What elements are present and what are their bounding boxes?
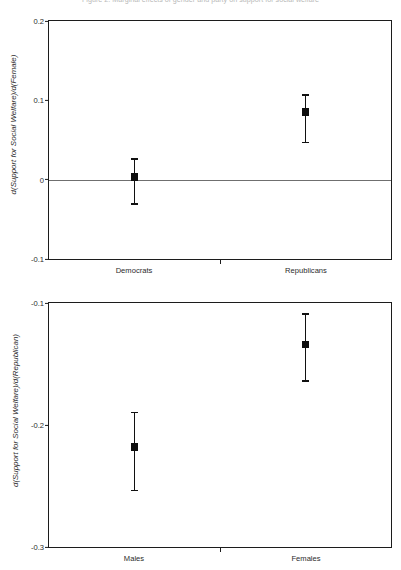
y-tick-label: 0.2	[33, 17, 49, 26]
y-tick-label: -0.3	[31, 543, 49, 552]
y-tick-label: -0.2	[31, 421, 49, 430]
x-tick-mark	[220, 547, 221, 552]
y-tick-label: -0.1	[31, 299, 49, 308]
x-axis-ticks	[49, 259, 391, 264]
y-axis-label-female: d(Support for Social Welfare)/d(Female)	[9, 50, 18, 200]
error-bar-line	[305, 94, 307, 142]
error-bar-cap-lower	[131, 203, 138, 205]
chart-panel-female-effect: d(Support for Social Welfare)/d(Female) …	[0, 8, 401, 280]
figure-page: Figure 2. Marginal effects of gender and…	[0, 0, 401, 570]
y-tick-label: 0	[40, 175, 49, 184]
y-tick-label: -0.1	[31, 255, 49, 264]
error-bar-cap-lower	[302, 380, 309, 382]
error-bar-cap-lower	[131, 490, 138, 492]
error-bar-cap-upper	[302, 94, 309, 96]
marker-square	[302, 108, 310, 116]
x-label-republicans: Republicans	[285, 266, 327, 275]
x-axis-ticks	[49, 547, 391, 552]
error-bar-cap-upper	[131, 158, 138, 160]
marker-square	[302, 341, 310, 349]
marker-square	[131, 443, 139, 451]
plot-area-female: 0.2 0.1 0 -0.1	[48, 20, 392, 260]
x-label-democrats: Democrats	[116, 266, 153, 275]
error-bar-cap-upper	[131, 412, 138, 414]
error-bar-cap-upper	[302, 313, 309, 315]
x-label-females: Females	[291, 554, 320, 563]
marker-square	[131, 173, 139, 181]
y-axis-label-republican: d(Support for Social Welfare)/d(Republic…	[11, 331, 20, 491]
cropped-header-text: Figure 2. Marginal effects of gender and…	[82, 0, 319, 4]
zero-reference-line	[49, 180, 391, 181]
x-label-males: Males	[124, 554, 144, 563]
y-tick-label: 0.1	[33, 96, 49, 105]
x-tick-mark	[220, 259, 221, 264]
chart-panel-republican-effect: d(Support for Social Welfare)/d(Republic…	[0, 288, 401, 570]
plot-area-republican: -0.1 -0.2 -0.3	[48, 302, 392, 548]
error-bar-line	[134, 158, 136, 203]
error-bar-cap-lower	[302, 142, 309, 144]
